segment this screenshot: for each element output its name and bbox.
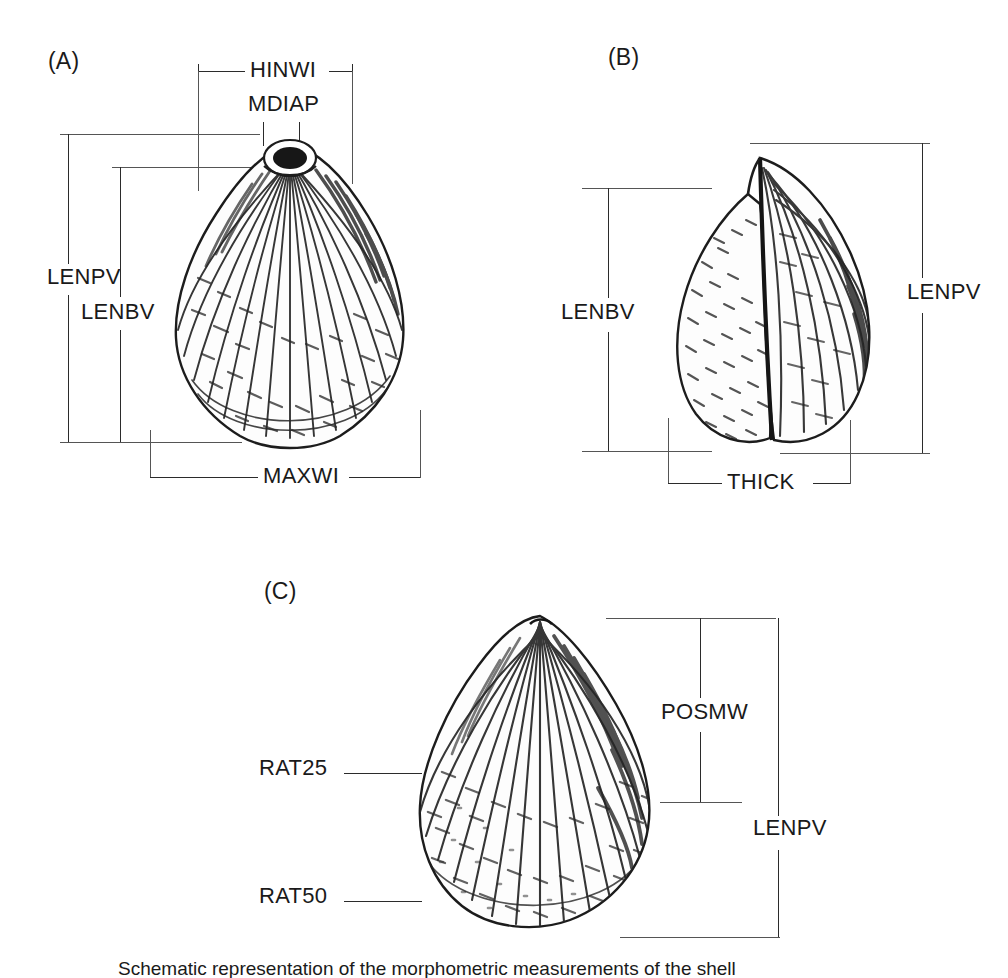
lenbv-b-label: LENBV <box>556 300 640 323</box>
lenpv-b-label: LENPV <box>902 280 986 303</box>
hinwi-left-bar <box>198 71 246 72</box>
shell-illustration-c <box>392 600 682 940</box>
shell-illustration-a <box>140 130 440 460</box>
panel-c-label: (C) <box>264 578 297 605</box>
mdiap-label: MDIAP <box>243 92 324 115</box>
lenpv-b-axis-lower <box>922 313 923 454</box>
panel-b-label: (B) <box>608 44 639 71</box>
lenpv-c-label: LENPV <box>748 816 832 839</box>
lenpv-a-label: LENPV <box>42 265 126 288</box>
lenpv-c-axis-lower <box>778 850 779 938</box>
rat50-label: RAT50 <box>254 884 332 907</box>
thick-left-bar <box>668 483 724 484</box>
maxwi-left-bar <box>150 477 260 478</box>
thick-label: THICK <box>722 470 800 493</box>
lenpv-b-axis-upper <box>922 143 923 278</box>
thick-right-bar <box>813 483 850 484</box>
lenpv-c-axis-upper <box>778 618 779 816</box>
figure-caption: Schematic representation of the morphome… <box>118 958 918 978</box>
panel-b: (B) LENBV LENPV THICK <box>520 0 1008 520</box>
panel-c: (C) POSMW LENPV RAT25 RAT50 <box>220 560 860 960</box>
lenbv-b-axis-lower <box>608 332 609 452</box>
hinwi-right-bar <box>329 71 353 72</box>
lenpv-a-axis <box>68 134 69 264</box>
posmw-axis-lower <box>700 732 701 802</box>
lenbv-a-axis <box>120 167 121 297</box>
hinwi-label: HINWI <box>245 58 321 81</box>
lenbv-a-axis-lower <box>120 330 121 443</box>
maxwi-label: MAXWI <box>258 464 344 487</box>
lenpv-a-axis-lower <box>68 295 69 443</box>
panel-a-label: (A) <box>48 48 79 75</box>
posmw-axis-upper <box>700 618 701 698</box>
lenbv-b-axis-upper <box>608 188 609 298</box>
shell-illustration-b <box>662 142 892 462</box>
panel-a: (A) HINWI MDIAP LENPV LENBV MAXWI <box>0 0 520 520</box>
figure-canvas: (A) HINWI MDIAP LENPV LENBV MAXWI <box>0 0 1008 978</box>
maxwi-right-bar <box>349 477 420 478</box>
rat25-label: RAT25 <box>254 756 332 779</box>
